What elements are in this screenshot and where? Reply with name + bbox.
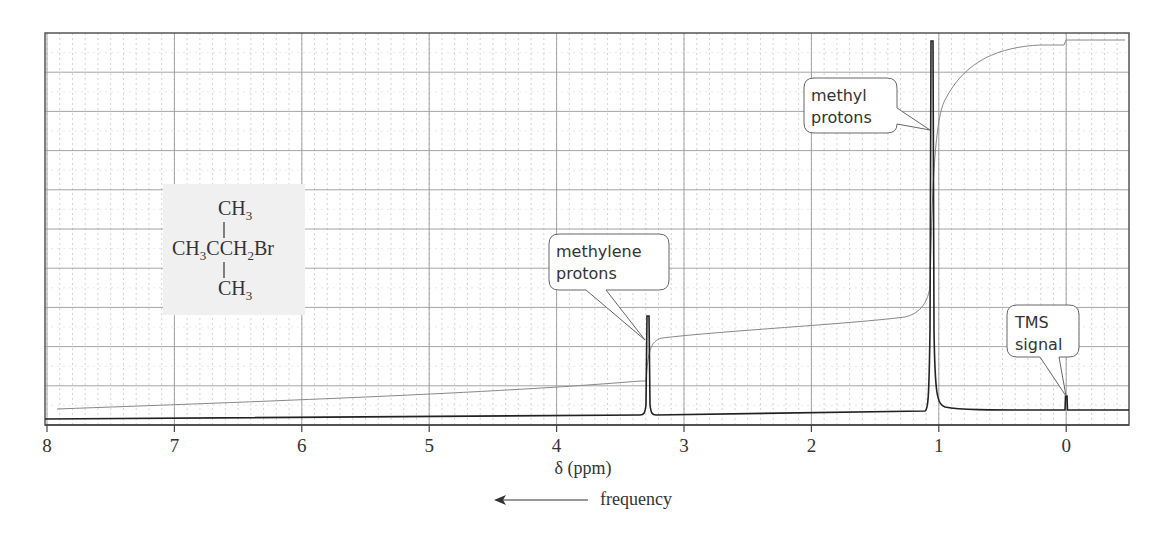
x-tick-label: 1 [934,435,944,456]
x-tick-label: 8 [42,435,52,456]
svg-text:signal: signal [1015,335,1062,354]
x-tick-label: 2 [807,435,817,456]
callout-methyl: methyl protons [804,78,930,133]
x-tick-label: 7 [170,435,180,456]
svg-text:TMS: TMS [1014,313,1049,332]
x-axis-title: δ (ppm) [555,458,612,479]
x-tick-label: 6 [297,435,307,456]
frequency-label: frequency [600,489,672,509]
callout-methylene: methylene protons [549,234,669,340]
svg-text:methyl: methyl [811,86,867,105]
svg-text:protons: protons [556,264,617,283]
x-axis-ticks: 876543210 [42,425,1071,456]
compound-structure: CH3 CH3CCH2Br CH3 [163,184,305,315]
callout-tms: TMS signal [1007,305,1079,396]
x-tick-label: 5 [424,435,434,456]
x-tick-label: 3 [679,435,689,456]
svg-text:protons: protons [811,108,872,127]
x-tick-label: 0 [1061,435,1071,456]
frequency-arrow [494,495,588,505]
nmr-spectrum-chart: CH3 CH3CCH2Br CH3 876543210 methylene pr… [0,0,1170,535]
x-tick-label: 4 [552,435,562,456]
svg-text:methylene: methylene [556,242,642,261]
